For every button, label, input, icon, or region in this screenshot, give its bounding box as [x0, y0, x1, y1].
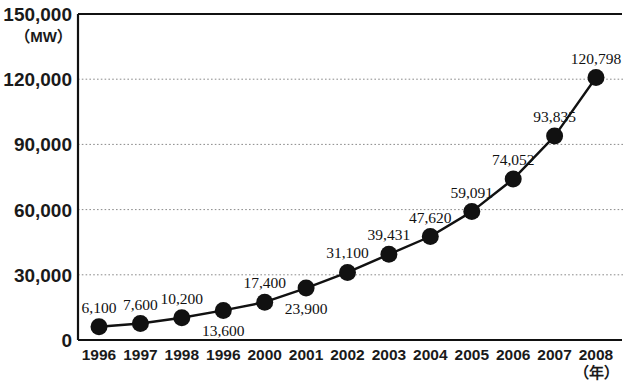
- data-point-marker: [339, 264, 356, 281]
- x-axis-tick-label: 2000: [247, 346, 281, 363]
- data-point-marker: [588, 69, 605, 86]
- y-axis-tick-label: 60,000: [14, 200, 72, 221]
- line-chart: 030,00060,00090,000120,000150,000 （MW） 1…: [0, 0, 633, 388]
- data-point-label: 74,052: [492, 151, 535, 168]
- data-point-label: 10,200: [160, 290, 203, 307]
- data-point-label: 59,091: [450, 184, 493, 201]
- y-axis-tick-label: 120,000: [3, 69, 72, 90]
- x-axis-tick-label: 2003: [372, 346, 407, 363]
- x-axis-unit-label: （年）: [574, 364, 619, 381]
- data-point-label: 13,600: [202, 322, 245, 339]
- data-point-marker: [91, 318, 108, 335]
- data-point-label: 23,900: [285, 300, 328, 317]
- data-point-label: 17,400: [243, 274, 286, 291]
- x-axis-tick-label: 2004: [413, 346, 448, 363]
- x-axis-tick-label: 2007: [537, 346, 571, 363]
- x-axis-tick-label: 1997: [123, 346, 157, 363]
- data-point-marker: [256, 294, 273, 311]
- x-axis-tick-label: 2001: [289, 346, 324, 363]
- data-point-marker: [298, 280, 315, 297]
- data-point-label: 47,620: [409, 209, 452, 226]
- y-axis-tick-label: 90,000: [14, 134, 72, 155]
- x-axis-tick-label: 1996: [206, 346, 241, 363]
- data-point-marker: [422, 228, 439, 245]
- data-point-marker: [463, 203, 480, 220]
- x-axis-tick-label: 1998: [165, 346, 200, 363]
- y-axis-unit-label: （MW）: [15, 28, 72, 45]
- y-axis-tick-label: 30,000: [14, 265, 72, 286]
- y-axis-tick-label: 0: [61, 330, 72, 351]
- x-axis-tick-label: 2008: [579, 346, 614, 363]
- data-point-label: 7,600: [123, 296, 158, 313]
- data-point-marker: [173, 309, 190, 326]
- data-point-marker: [546, 128, 563, 145]
- chart-container: 030,00060,00090,000120,000150,000 （MW） 1…: [0, 0, 633, 388]
- data-point-marker: [380, 246, 397, 263]
- data-point-marker: [505, 171, 522, 188]
- data-point-label: 93,835: [533, 108, 576, 125]
- x-axis-tick-label: 2005: [455, 346, 490, 363]
- x-axis-tick-label: 2006: [496, 346, 531, 363]
- data-point-label: 6,100: [82, 299, 117, 316]
- x-axis-tick-label: 2002: [330, 346, 364, 363]
- data-point-label: 39,431: [368, 226, 411, 243]
- data-point-marker: [215, 302, 232, 319]
- data-point-label: 31,100: [326, 244, 369, 261]
- data-point-marker: [132, 315, 149, 332]
- x-axis-tick-label: 1996: [82, 346, 117, 363]
- data-point-label: 120,798: [571, 50, 622, 67]
- y-axis-tick-label: 150,000: [3, 4, 72, 25]
